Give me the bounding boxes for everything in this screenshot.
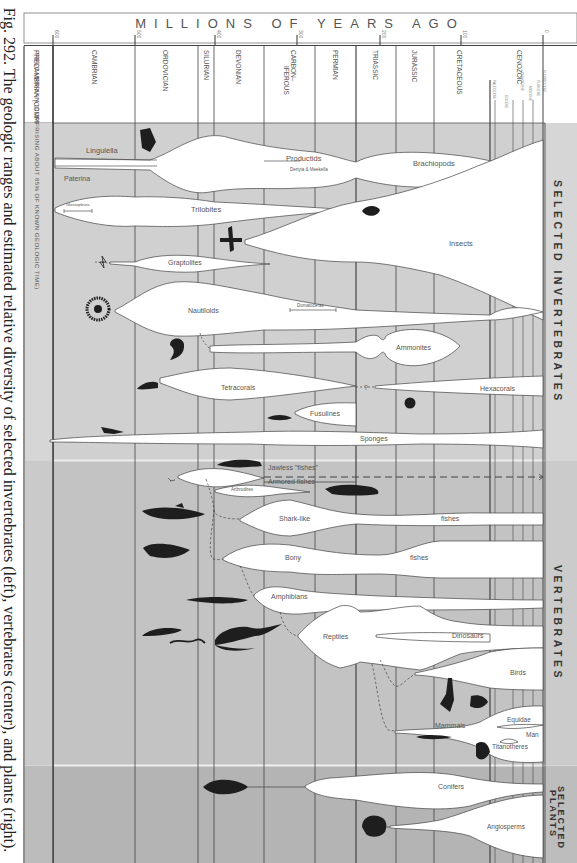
label-brachiopods: Brachiopods xyxy=(413,159,455,168)
epoch-eocene: EOCENE xyxy=(504,95,508,108)
label-equidae: Equidae xyxy=(507,716,531,724)
label-sharklike: Shark-like xyxy=(279,515,310,522)
label-birds: Birds xyxy=(510,669,526,676)
label-man: Man xyxy=(526,731,539,738)
label-paterina: Paterina xyxy=(64,175,90,182)
tick-300: 300 xyxy=(298,30,304,39)
label-angiosperms: Angiosperms xyxy=(487,823,526,831)
axis-title: MILLIONS OF YEARS AGO xyxy=(135,16,465,31)
period-triassic: TRIASSIC xyxy=(372,50,379,80)
period-silurian: SILURIAN xyxy=(203,50,210,80)
label-dertyia: Dertyia & Meekella xyxy=(290,167,328,172)
section-label-plants-2: PLANTS xyxy=(548,790,558,838)
label-domatoceras: Domatoceras xyxy=(297,303,325,308)
label-titanotheres: Titanotheres xyxy=(492,743,529,750)
label-mammals: Mammals xyxy=(435,722,466,729)
label-insects: Insects xyxy=(449,239,473,248)
tick-100: 100 xyxy=(462,30,468,39)
label-fishes2: fishes xyxy=(410,554,429,561)
hexacoral-silhouette xyxy=(405,398,416,409)
period-cambrian: CAMBRIAN xyxy=(91,50,98,85)
label-sponges: Sponges xyxy=(360,435,388,443)
label-arthrodires: Arthrodires xyxy=(231,487,254,492)
label-glossopleura: Glossopleura xyxy=(66,202,90,207)
label-fishes1: fishes xyxy=(441,515,460,522)
period-carboniferous: CARBON– xyxy=(290,50,297,82)
label-dinosaurs: Dinosaurs xyxy=(452,632,484,639)
tick-600: 600 xyxy=(54,30,60,39)
section-label-vertebrates: VERTEBRATES xyxy=(552,565,564,681)
label-tetracorals: Tetracorals xyxy=(221,384,256,391)
tick-0: 0 xyxy=(544,30,550,33)
tick-400: 400 xyxy=(216,30,222,39)
period-carboniferous-2: IFEROUS xyxy=(283,66,290,96)
label-bony: Bony xyxy=(285,554,301,562)
label-nautiloids: Nautiloids xyxy=(188,307,219,314)
label-jawless: Jawless "fishes" xyxy=(268,464,319,471)
epoch-miocene: MIOCENE xyxy=(528,86,532,101)
label-hexacorals: Hexacorals xyxy=(480,385,516,392)
epoch-oligocene: OLIGOCENE xyxy=(520,72,524,91)
label-armored: Armored fishes xyxy=(268,478,316,485)
label-fusulines: Fusulines xyxy=(310,410,340,417)
geologic-range-diagram: MILLIONS OF YEARS AGO 600 500 400 300 20… xyxy=(0,0,577,863)
period-ordovician: ORDOVICIAN xyxy=(162,50,169,91)
label-conifers: Conifers xyxy=(438,783,465,790)
section-label-invertebrates: SELECTED INVERTEBRATES xyxy=(552,180,564,404)
label-reptiles: Reptiles xyxy=(323,633,349,641)
period-cretaceous: CRETACEOUS xyxy=(456,50,463,95)
tick-500: 500 xyxy=(136,30,142,39)
label-lingulella: Lingulella xyxy=(86,146,119,155)
label-ammonites: Ammonites xyxy=(396,344,432,351)
tick-200: 200 xyxy=(381,30,387,39)
period-devonian: DEVONIAN xyxy=(235,50,242,84)
precambrian-note: PRECAMBRIAN (COMPRISING ABOUT 85% OF KNO… xyxy=(34,53,40,290)
label-graptolites: Graptolites xyxy=(168,259,202,267)
label-trilobites: Trilobites xyxy=(191,205,221,214)
period-jurassic: JURASSIC xyxy=(411,50,418,82)
label-amphibians: Amphibians xyxy=(271,593,308,601)
epoch-pliocene: PLIOCENE xyxy=(536,80,540,96)
label-question: ? xyxy=(364,384,368,391)
epoch-paleocene: PALEOCENE xyxy=(492,80,496,99)
period-permian: PERMIAN xyxy=(332,50,339,80)
label-productids: Productids xyxy=(286,154,322,163)
